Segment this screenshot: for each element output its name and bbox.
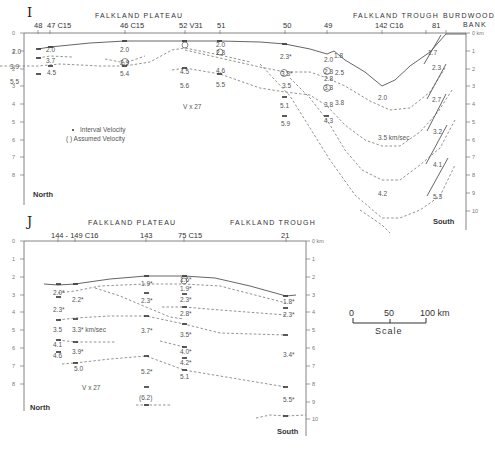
svg-text:9: 9: [472, 190, 475, 196]
interval-marks: [56, 276, 288, 416]
region-bank: BANK: [463, 21, 487, 28]
scale-bar: 0 50 100 km Scale: [349, 308, 450, 336]
svg-text:8: 8: [12, 172, 15, 178]
svg-text:2: 2: [472, 66, 475, 72]
svg-text:9: 9: [312, 399, 315, 405]
svg-text:6: 6: [12, 137, 15, 143]
svg-text:5.5: 5.5: [10, 78, 19, 85]
horizon-6: [160, 341, 184, 347]
station-ticks: [38, 30, 446, 34]
svg-text:4.6: 4.6: [216, 67, 225, 74]
svg-text:1.6*: 1.6*: [180, 276, 192, 283]
svg-text:4.1: 4.1: [53, 341, 62, 348]
svg-text:4.0*: 4.0*: [180, 348, 192, 355]
velocity-labels: 2.0* 2.2* 2.3* 3.5 3.3* km/sec 4.1 3.9* …: [53, 276, 295, 403]
svg-text:10: 10: [312, 416, 318, 422]
horizon-5: [58, 340, 115, 342]
svg-text:3.8: 3.8: [335, 99, 344, 106]
svg-text:1.8: 1.8: [334, 52, 343, 59]
south-label: South: [277, 427, 299, 436]
svg-text:2.3: 2.3: [216, 49, 225, 56]
svg-text:0 km: 0 km: [312, 238, 324, 244]
svg-text:2.3*: 2.3*: [180, 296, 192, 303]
interval-velocity-segments: [424, 35, 448, 196]
region-falkland-plateau: FALKLAND PLATEAU: [88, 219, 176, 226]
region-burdwood: BURDWOOD: [443, 12, 495, 19]
svg-text:6: 6: [472, 137, 475, 143]
svg-text:5.0: 5.0: [74, 365, 83, 372]
region-falkland-trough: FALKLAND TROUGH: [353, 12, 439, 19]
svg-text:5.9: 5.9: [281, 120, 290, 127]
svg-text:8: 8: [472, 172, 475, 178]
svg-text:2.0: 2.0: [12, 48, 21, 55]
svg-text:3.3: 3.3: [324, 84, 333, 91]
scale-tick-50: 50: [384, 308, 394, 318]
horizon-8: [360, 210, 390, 233]
legend: Interval Velocity ( ) Assumed Velocity: [66, 126, 126, 143]
south-label: South: [433, 217, 455, 226]
svg-text:1.7: 1.7: [428, 49, 437, 56]
svg-text:3.2: 3.2: [433, 128, 442, 135]
seafloor-profile: [44, 276, 296, 296]
svg-text:3: 3: [312, 292, 315, 298]
station-label: 48: [34, 21, 42, 30]
svg-text:4: 4: [472, 101, 475, 107]
station-label: 52 V31: [179, 21, 203, 30]
svg-text:5: 5: [312, 327, 315, 333]
svg-text:2.0: 2.0: [120, 46, 129, 53]
svg-text:4: 4: [312, 309, 315, 315]
region-falkland-plateau: FALKLAND PLATEAU: [95, 12, 183, 19]
station-label: 51: [217, 21, 225, 30]
svg-text:1: 1: [312, 256, 315, 262]
svg-text:1: 1: [472, 48, 475, 54]
svg-text:2.3: 2.3: [324, 68, 333, 75]
svg-text:1: 1: [12, 256, 15, 262]
station-label: 49: [324, 21, 332, 30]
svg-text:10: 10: [472, 208, 478, 214]
svg-text:3.4*: 3.4*: [283, 351, 295, 358]
svg-text:2.0: 2.0: [46, 46, 55, 53]
svg-text:2.8: 2.8: [324, 75, 333, 82]
svg-text:3.5*: 3.5*: [180, 331, 192, 338]
svg-text:4: 4: [12, 101, 15, 107]
station-label: 81: [432, 21, 440, 30]
svg-text:5.2*: 5.2*: [141, 368, 153, 375]
svg-text:5: 5: [12, 327, 15, 333]
station-label: 50: [283, 21, 291, 30]
svg-text:8: 8: [12, 381, 15, 387]
svg-text:3.7*: 3.7*: [141, 327, 153, 334]
vertical-exaggeration-label: V x 27: [82, 384, 101, 391]
scale-tick-0: 0: [349, 308, 354, 318]
svg-text:5.1: 5.1: [180, 373, 189, 380]
svg-text:2.3: 2.3: [432, 64, 441, 71]
svg-text:5.5*: 5.5*: [283, 396, 295, 403]
svg-text:5.4: 5.4: [120, 70, 129, 77]
svg-text:2: 2: [312, 274, 315, 280]
svg-text:4.2: 4.2: [378, 190, 387, 197]
scale-tick-100: 100 km: [420, 308, 450, 318]
svg-text:7: 7: [472, 154, 475, 160]
horizon-5: [172, 68, 452, 146]
horizon-9: [256, 415, 306, 418]
svg-text:3.5 km/sec: 3.5 km/sec: [378, 134, 410, 141]
svg-text:3.8: 3.8: [324, 101, 333, 108]
region-falkland-trough: FALKLAND TROUGH: [230, 219, 316, 226]
station-label: 21: [281, 231, 289, 240]
svg-text:4.2*: 4.2*: [180, 359, 192, 366]
svg-text:2.0*: 2.0*: [53, 289, 65, 296]
svg-text:3.9*: 3.9*: [72, 348, 84, 355]
right-axis-ticks: 0 km 1 2 3 4 5 6 7 8 9 10: [306, 238, 324, 422]
svg-text:2.0: 2.0: [378, 94, 387, 101]
interval-velocity-dot-icon: [72, 129, 74, 131]
station-label: 142 C16: [375, 21, 403, 30]
seismic-refraction-diagram: I FALKLAND PLATEAU FALKLAND TROUGH BURDW…: [0, 0, 495, 449]
svg-text:3.7: 3.7: [46, 57, 55, 64]
svg-text:0: 0: [12, 30, 15, 36]
svg-text:3.9: 3.9: [10, 63, 19, 70]
svg-text:2.0: 2.0: [324, 56, 333, 63]
right-axis-ticks: 0 km 1 2 3 4 5 6 7 8 9 10: [466, 30, 484, 214]
station-label: 75 C15: [178, 231, 202, 240]
svg-text:2.0: 2.0: [216, 41, 225, 48]
left-axis-ticks: 0 1 2 3 4 5 6 7 8: [12, 238, 24, 387]
svg-text:5: 5: [12, 119, 15, 125]
